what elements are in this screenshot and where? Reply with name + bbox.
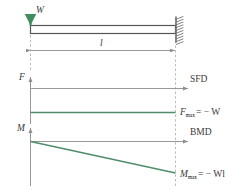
support-hatching <box>176 16 183 44</box>
bmd-axis-label-m: M <box>16 123 26 133</box>
sfd-max-expression: = − W <box>196 107 220 117</box>
bmd-group: M BMD Mmax= − Wl <box>16 123 225 186</box>
sfd-title: SFD <box>190 74 208 84</box>
sfd-max-subscript: max <box>186 112 195 118</box>
span-dimension: l <box>31 38 175 51</box>
beam-assembly: W <box>31 5 184 45</box>
bmd-max-expression: = − Wl <box>198 169 225 179</box>
cantilever-beam-diagram: W l F SFD Fmax= − W <box>0 0 248 190</box>
load-label-w: W <box>36 5 45 15</box>
bmd-max-subscript: max <box>188 174 197 180</box>
sfd-max-value: Fmax= − W <box>179 107 220 118</box>
projection-lines <box>31 18 176 186</box>
beam-body <box>31 26 176 34</box>
bmd-curve <box>31 142 176 174</box>
span-label-l: l <box>100 38 103 48</box>
sfd-group: F SFD Fmax= − W <box>18 72 220 124</box>
bmd-max-value: Mmax= − Wl <box>179 169 225 180</box>
bmd-title: BMD <box>190 127 212 137</box>
sfd-axis-label-f: F <box>18 72 25 82</box>
